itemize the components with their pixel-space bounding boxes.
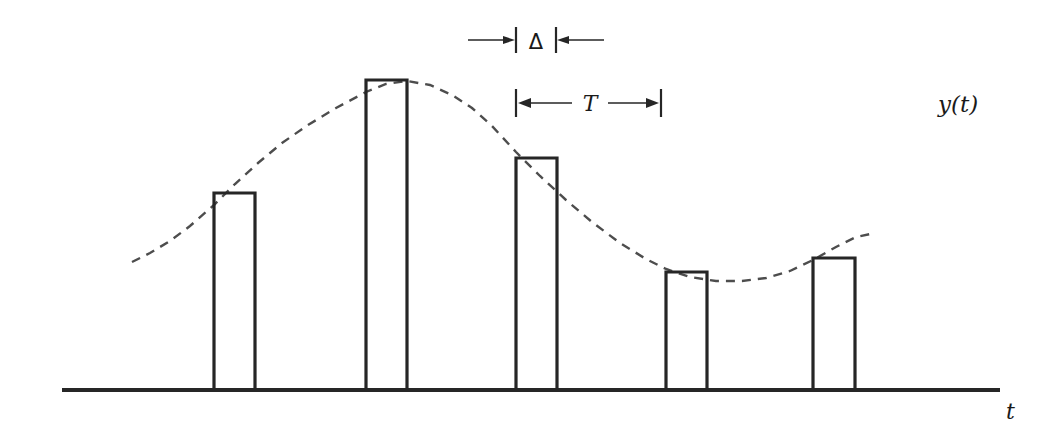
pulse-outline-5 xyxy=(813,258,855,390)
signal-sampling-diagram: Δ T y(t) t xyxy=(0,0,1057,438)
sampling-pulse xyxy=(366,80,407,390)
pulse-outline-3 xyxy=(516,158,557,390)
delta-label: Δ xyxy=(529,30,544,54)
period-label: T xyxy=(583,91,600,116)
pulse-outline-1 xyxy=(214,193,255,390)
delta-arrow-left-head xyxy=(503,36,515,44)
delta-arrow-right-head xyxy=(557,36,569,44)
t-axis-label: t xyxy=(1006,399,1015,424)
figure-container: Δ T y(t) t xyxy=(0,0,1057,438)
period-arrow-right-head xyxy=(646,98,659,108)
sampling-pulse xyxy=(516,158,557,390)
pulse-outline-4 xyxy=(666,272,707,390)
sampling-pulse xyxy=(214,193,255,390)
sampling-pulse xyxy=(813,258,855,390)
period-annotation: T xyxy=(516,89,661,117)
period-arrow-left-head xyxy=(518,98,531,108)
sampling-pulse-group xyxy=(214,80,855,390)
delta-annotation: Δ xyxy=(468,27,604,54)
pulse-outline-2 xyxy=(366,80,407,390)
signal-envelope-curve xyxy=(132,81,875,281)
y-axis-label: y(t) xyxy=(937,91,978,117)
sampling-pulse xyxy=(666,272,707,390)
